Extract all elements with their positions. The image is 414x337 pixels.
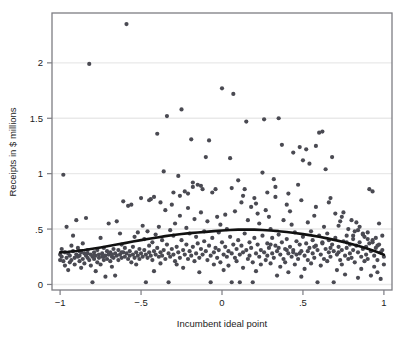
data-point [131, 245, 135, 249]
data-point [170, 247, 174, 251]
data-point [191, 185, 195, 189]
data-point [354, 220, 358, 224]
data-point [178, 214, 182, 218]
data-point [205, 219, 209, 223]
data-point [168, 228, 172, 232]
data-point [319, 264, 323, 268]
data-point [186, 206, 190, 210]
data-point [209, 280, 213, 284]
data-point [241, 194, 245, 198]
data-point [332, 249, 336, 253]
data-point [192, 259, 196, 263]
data-point [259, 262, 263, 266]
data-point [247, 240, 251, 244]
data-point [375, 270, 379, 274]
data-point [299, 275, 303, 279]
data-point [123, 246, 127, 250]
data-point [152, 269, 156, 273]
data-point [202, 239, 206, 243]
x-tick-label: 0 [219, 297, 224, 308]
data-point [129, 203, 133, 207]
x-tick-label: .5 [299, 297, 307, 308]
y-tick-label: 0 [38, 279, 43, 290]
data-point [264, 208, 268, 212]
data-point [239, 244, 243, 248]
data-point [71, 234, 75, 238]
data-point [327, 250, 331, 254]
data-point [291, 250, 295, 254]
data-point [379, 277, 383, 281]
data-point [372, 265, 376, 269]
data-point [94, 269, 98, 273]
data-point [191, 245, 195, 249]
data-point [73, 262, 77, 266]
data-point [260, 234, 264, 238]
data-point [132, 235, 136, 239]
data-point [312, 256, 316, 260]
data-point [186, 192, 190, 196]
data-point [322, 225, 326, 229]
y-axis-title: Receipts in $ millions [7, 107, 18, 196]
data-point [155, 246, 159, 250]
data-point [285, 248, 289, 252]
data-point [370, 240, 374, 244]
data-point [128, 249, 132, 253]
data-point [191, 180, 195, 184]
data-point [218, 260, 222, 264]
data-point [369, 274, 373, 278]
data-point [278, 265, 282, 269]
axis-tick-labels: −1−.50.510.511.52 [30, 57, 387, 308]
data-point [340, 262, 344, 266]
data-point [60, 247, 64, 251]
data-point [234, 247, 238, 251]
data-point [265, 190, 269, 194]
data-point [302, 267, 306, 271]
data-point [92, 254, 96, 258]
data-point [239, 200, 243, 204]
data-point [307, 162, 311, 166]
data-point [272, 177, 276, 181]
data-point [136, 230, 140, 234]
data-point [197, 256, 201, 260]
data-point [74, 218, 78, 222]
data-point [218, 223, 222, 227]
data-point [349, 256, 353, 260]
data-point [63, 264, 67, 268]
data-point [60, 255, 64, 259]
data-point [178, 194, 182, 198]
data-point [98, 236, 102, 240]
data-point [264, 258, 268, 262]
data-point [336, 224, 340, 228]
data-point [315, 280, 319, 284]
data-point [281, 218, 285, 222]
data-point [108, 259, 112, 263]
data-point [171, 252, 175, 256]
data-point [89, 264, 93, 268]
y-tick-label: 2 [38, 57, 43, 68]
data-point [175, 245, 179, 249]
data-point [364, 252, 368, 256]
data-point [304, 241, 308, 245]
data-point [158, 261, 162, 265]
data-point [165, 242, 169, 246]
data-point [64, 225, 68, 229]
data-point [179, 238, 183, 242]
data-point [69, 244, 73, 248]
data-point [325, 231, 329, 235]
data-point [319, 252, 323, 256]
data-point [163, 208, 167, 212]
data-point [141, 224, 145, 228]
data-point [155, 132, 159, 136]
data-point [205, 258, 209, 262]
data-point [171, 190, 175, 194]
data-point [120, 250, 124, 254]
data-point [257, 255, 261, 259]
y-tick-label: 1 [38, 168, 43, 179]
data-point [286, 192, 290, 196]
data-point [183, 252, 187, 256]
data-point [343, 272, 347, 276]
data-point [345, 234, 349, 238]
data-point [351, 234, 355, 238]
data-point [166, 280, 170, 284]
x-axis-title: Incumbent ideal point [177, 318, 268, 329]
